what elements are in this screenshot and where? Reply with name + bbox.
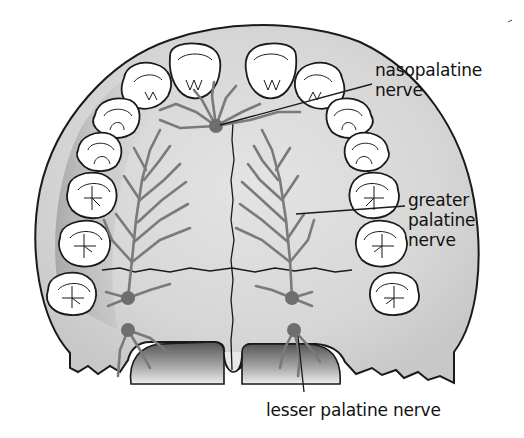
label-line: nerve (375, 80, 482, 100)
nasopalatine-foramen (209, 119, 223, 133)
greater-palatine-foramen-right (285, 291, 299, 305)
lesser-palatine-foramen-right (287, 323, 301, 337)
label-line: greater (408, 190, 475, 210)
label-line: lesser palatine nerve (266, 400, 441, 420)
label-nasopalatine-nerve: nasopalatine nerve (375, 60, 482, 100)
label-line: nasopalatine (375, 60, 482, 80)
label-line: nerve (408, 230, 475, 250)
label-lesser-palatine-nerve: lesser palatine nerve (266, 400, 441, 420)
greater-palatine-foramen-left (121, 291, 135, 305)
corner-mark (508, 20, 512, 22)
label-line: palatine (408, 210, 475, 230)
lesser-palatine-foramen-left (121, 323, 135, 337)
label-greater-palatine-nerve: greater palatine nerve (408, 190, 475, 250)
